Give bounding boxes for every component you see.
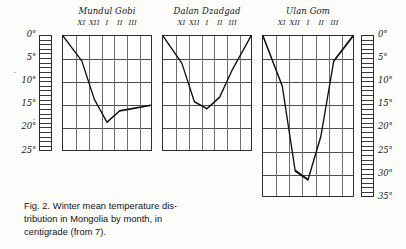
month-label-III: III [129,19,137,27]
month-axis-ulan-gom: XIXIIIIIIII [262,19,354,29]
ruler-label-20: 20° [378,121,392,131]
ruler-label-20: 20° [22,121,36,131]
left-temperature-ruler [39,35,52,151]
month-label-I: I [307,19,310,27]
chart-panel-dalan-dzadgad: Dalan Dzadgad XIXIIIIIIII [162,0,252,151]
ruler-label-10: 10° [378,75,392,85]
figure-caption: Fig. 2. Winter mean temperature dis- tri… [24,200,224,240]
ruler-label-5: 5° [378,52,387,62]
caption-line-3: centigrade (from 7). [24,226,224,239]
month-label-XI: XI [77,19,85,27]
ruler-label-0: 0° [27,29,36,39]
ruler-label-15: 15° [378,98,392,108]
month-axis-mandal-gobi: XIXIIIIIIII [62,19,152,29]
ruler-label-5: 5° [27,52,36,62]
caption-line-1: Fig. 2. Winter mean temperature dis- [24,200,224,213]
chart-panel-mandal-gobi: Mundul Gobi XIXIIIIIIII [62,0,152,151]
month-label-II: II [117,19,123,27]
month-label-I: I [206,19,209,27]
chart-title-ulan-gom: Ulan Gom [262,6,354,16]
ruler-label-35: 35° [378,191,392,201]
ruler-label-10: 10° [22,75,36,85]
right-temperature-ruler [361,35,374,197]
temperature-curve-ulan-gom [263,36,353,180]
curve-svg-mandal-gobi [63,36,151,150]
chart-title-mandal-gobi: Mundul Gobi [62,6,152,16]
chart-panel-ulan-gom: Ulan Gom XIXIIIIIIII [262,0,354,197]
ruler-label-0: 0° [378,29,387,39]
curve-svg-dalan-dzadgad [163,36,251,150]
month-label-XII: XII [89,19,100,27]
caption-line-2: tribution in Mongolia by month, in [24,213,224,226]
month-label-III: III [330,19,338,27]
plot-area-mandal-gobi [62,35,152,151]
month-label-II: II [318,19,324,27]
month-label-XII: XII [290,19,301,27]
month-axis-dalan-dzadgad: XIXIIIIIIII [162,19,252,29]
scan-speck [33,119,35,120]
ruler-label-15: 15° [22,98,36,108]
month-label-XII: XII [189,19,200,27]
scan-speck [14,72,16,73]
month-label-XI: XI [177,19,185,27]
month-label-XI: XI [278,19,286,27]
ruler-label-30: 30° [378,168,392,178]
temperature-curve-dalan-dzadgad [163,36,251,109]
ruler-tick [40,147,51,152]
plot-area-dalan-dzadgad [162,35,252,151]
curve-svg-ulan-gom [263,36,353,196]
plot-area-ulan-gom [262,35,354,197]
temperature-curve-mandal-gobi [63,36,151,122]
ruler-label-25: 25° [22,145,36,155]
ruler-label-25: 25° [378,145,392,155]
month-label-I: I [106,19,109,27]
ruler-tick [362,193,373,198]
figure-winter-mean-temperature: 0°5°10°15°20°25° 0°5°10°15°20°25°30°35° … [0,0,406,249]
month-label-II: II [217,19,223,27]
chart-title-dalan-dzadgad: Dalan Dzadgad [162,6,252,16]
month-label-III: III [229,19,237,27]
